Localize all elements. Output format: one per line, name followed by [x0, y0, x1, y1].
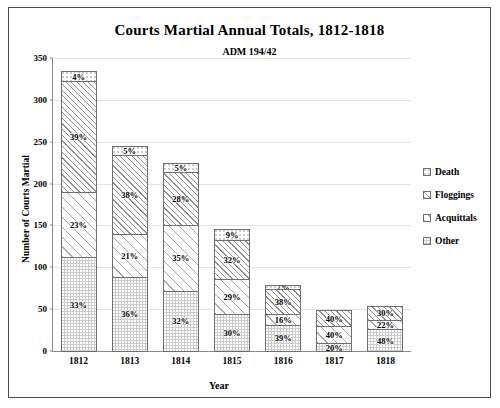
bar-segment-floggings-1815[interactable]: 32% [214, 240, 250, 280]
x-tick-label-1815: 1815 [206, 356, 257, 366]
bar-segment-floggings-1816[interactable]: 38% [265, 289, 301, 316]
legend-item-acquittals[interactable]: Acquittals [423, 212, 487, 223]
legend-item-label: Other [435, 236, 459, 246]
plot-area: 050100150200250300350 4%39%23%33%5%38%21… [53, 58, 411, 351]
y-tick-mark [50, 141, 53, 142]
bar-segment-percent-label: 38% [275, 297, 292, 307]
y-axis-title: Number of Courts Martial [21, 134, 31, 284]
bar-segment-percent-label: 5% [174, 163, 187, 173]
legend-item-label: Death [435, 167, 459, 177]
y-tick-mark [50, 58, 53, 59]
bar-segment-acquittals-1815[interactable]: 29% [214, 279, 250, 315]
bar-segment-percent-label: 40% [326, 330, 343, 340]
legend-item-label: Floggings [435, 190, 474, 200]
legend-swatch-icon [423, 214, 431, 222]
bar-segment-percent-label: 33% [70, 300, 87, 310]
legend: DeathFloggingsAcquittalsOther [423, 166, 487, 258]
x-tick-label-1813: 1813 [104, 356, 155, 366]
bar-segment-percent-label: 29% [224, 292, 241, 302]
bar-segment-other-1814[interactable]: 32% [163, 291, 199, 352]
bar-segment-other-1813[interactable]: 36% [112, 277, 148, 352]
y-tick-label: 350 [34, 53, 48, 63]
y-tick-label: 300 [34, 95, 48, 105]
y-tick-mark [50, 99, 53, 100]
bar-stack-1815[interactable]: 9%32%29%30% [214, 225, 250, 351]
x-tick-label-1818: 1818 [360, 356, 411, 366]
bar-stack-1816[interactable]: 7%38%16%39% [265, 281, 301, 351]
bar-segment-floggings-1818[interactable]: 30% [367, 306, 403, 320]
gridline [53, 142, 411, 143]
x-axis-title: Year [9, 380, 429, 391]
bar-segment-floggings-1814[interactable]: 28% [163, 172, 199, 226]
bar-segment-percent-label: 30% [377, 308, 394, 318]
bar-segment-acquittals-1817[interactable]: 40% [316, 326, 352, 344]
bar-segment-percent-label: 20% [326, 343, 343, 352]
bar-segment-percent-label: 22% [377, 320, 394, 330]
legend-item-death[interactable]: Death [423, 166, 487, 177]
gridline [53, 58, 411, 59]
legend-item-label: Acquittals [435, 213, 477, 223]
y-tick-label: 250 [34, 137, 48, 147]
x-tick-label-1816: 1816 [258, 356, 309, 366]
bar-segment-percent-label: 32% [172, 316, 189, 326]
y-tick-mark [50, 183, 53, 184]
bar-segment-percent-label: 5% [123, 146, 136, 156]
bar-segment-percent-label: 4% [72, 72, 85, 82]
gridline [53, 184, 411, 185]
bar-segment-floggings-1813[interactable]: 38% [112, 155, 148, 235]
legend-item-floggings[interactable]: Floggings [423, 189, 487, 200]
y-tick-label: 50 [38, 304, 47, 314]
gridline [53, 100, 411, 101]
bar-stack-1812[interactable]: 4%39%23%33% [61, 64, 97, 351]
y-tick-label: 200 [34, 179, 48, 189]
x-tick-label-1812: 1812 [53, 356, 104, 366]
bar-segment-percent-label: 16% [275, 315, 292, 325]
bar-segment-acquittals-1812[interactable]: 23% [61, 192, 97, 258]
bar-segment-other-1812[interactable]: 33% [61, 257, 97, 352]
y-tick-mark [50, 309, 53, 310]
chart-title: Courts Martial Annual Totals, 1812-1818 [9, 22, 490, 39]
bar-segment-percent-label: 36% [121, 309, 138, 319]
y-tick-mark [50, 267, 53, 268]
x-tick-label-1814: 1814 [155, 356, 206, 366]
bar-segment-floggings-1817[interactable]: 40% [316, 310, 352, 328]
bar-stack-1818[interactable]: 30%22%48% [367, 303, 403, 351]
y-tick-label: 100 [34, 262, 48, 272]
x-tick-label-1817: 1817 [309, 356, 360, 366]
bar-segment-other-1816[interactable]: 39% [265, 325, 301, 352]
bar-stack-1813[interactable]: 5%38%21%36% [112, 142, 148, 351]
y-tick-label: 150 [34, 220, 48, 230]
bar-segment-percent-label: 48% [377, 336, 394, 346]
chart-subtitle: ADM 194/42 [9, 46, 490, 57]
y-tick-mark [50, 351, 53, 352]
bar-segment-percent-label: 30% [224, 328, 241, 338]
bar-segment-percent-label: 9% [226, 230, 239, 240]
bar-segment-acquittals-1813[interactable]: 21% [112, 234, 148, 278]
bar-segment-other-1817[interactable]: 20% [316, 343, 352, 352]
bar-stack-1817[interactable]: 40%40%20% [316, 307, 352, 351]
bar-stack-1814[interactable]: 5%28%35%32% [163, 159, 199, 351]
chart-frame: Courts Martial Annual Totals, 1812-1818 … [8, 7, 491, 398]
bar-segment-percent-label: 23% [70, 220, 87, 230]
bar-segment-percent-label: 28% [172, 194, 189, 204]
legend-swatch-icon [423, 237, 431, 245]
y-tick-mark [50, 225, 53, 226]
bar-segment-percent-label: 38% [121, 190, 138, 200]
bar-segment-percent-label: 32% [224, 255, 241, 265]
bar-segment-other-1815[interactable]: 30% [214, 314, 250, 352]
bar-segment-percent-label: 39% [275, 333, 292, 343]
bar-segment-percent-label: 35% [172, 253, 189, 263]
bar-segment-percent-label: 40% [326, 314, 343, 324]
bar-segment-floggings-1812[interactable]: 39% [61, 81, 97, 193]
y-tick-label: 0 [43, 346, 48, 356]
bar-segment-percent-label: 39% [70, 132, 87, 142]
legend-swatch-icon [423, 168, 431, 176]
bar-segment-other-1818[interactable]: 48% [367, 329, 403, 352]
bar-segment-percent-label: 21% [121, 251, 138, 261]
legend-swatch-icon [423, 191, 431, 199]
bar-segment-acquittals-1814[interactable]: 35% [163, 225, 199, 292]
legend-item-other[interactable]: Other [423, 235, 487, 246]
